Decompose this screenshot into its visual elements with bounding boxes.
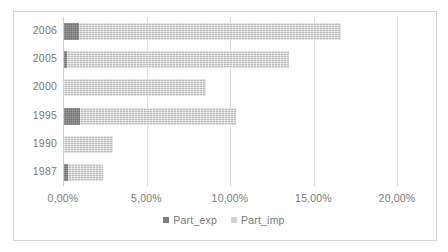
value-axis-tick-label: 20,00% [379,192,416,204]
bar-row [63,73,397,101]
bar-segment-part_exp[interactable] [64,108,80,125]
bar-segment-part_exp[interactable] [64,23,79,40]
chart-legend: Part_exp Part_imp [0,214,448,226]
bar-row [63,17,397,45]
category-label: 1995 [9,109,57,121]
plot-area [63,17,397,186]
bar-row [63,158,397,186]
legend-label: Part_imp [241,214,285,226]
category-label: 2006 [9,24,57,36]
value-axis-tick-label: 5,00% [131,192,162,204]
square-marker-dark-icon [163,217,169,223]
stacked-bar[interactable] [64,79,206,96]
legend-item-part-imp[interactable]: Part_imp [231,214,285,226]
stacked-bar[interactable] [64,51,289,68]
stacked-bar[interactable] [64,136,113,153]
bar-segment-part_imp[interactable] [64,79,206,96]
category-label: 2000 [9,80,57,92]
stacked-bar[interactable] [64,164,103,181]
category-label: 1987 [9,165,57,177]
bar-segment-part_imp[interactable] [64,136,113,153]
bar-row [63,45,397,73]
value-axis-tick-label: 0,00% [48,192,79,204]
square-marker-light-icon [231,217,237,223]
gridline [397,17,398,186]
legend-item-part-exp[interactable]: Part_exp [163,214,217,226]
category-axis-labels: 2006 2005 2000 1995 1990 1987 [5,17,57,186]
value-axis-tick-label: 15,00% [295,192,332,204]
category-label: 2005 [9,52,57,64]
bar-segment-part_imp[interactable] [68,164,103,181]
bar-segment-part_imp[interactable] [79,23,341,40]
bar-chart: 2006 2005 2000 1995 1990 1987 0,00%5,00%… [0,0,448,252]
bar-segment-part_imp[interactable] [67,51,289,68]
bar-segment-part_imp[interactable] [80,108,236,125]
category-label: 1990 [9,137,57,149]
value-axis-tick-label: 10,00% [212,192,249,204]
stacked-bar[interactable] [64,108,236,125]
legend-label: Part_exp [173,214,217,226]
stacked-bar[interactable] [64,23,341,40]
bar-row [63,130,397,158]
bar-row [63,102,397,130]
